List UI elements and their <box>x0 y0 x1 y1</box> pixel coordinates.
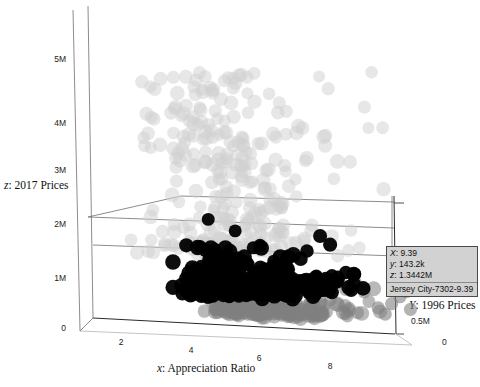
scatter-point[interactable] <box>145 111 158 124</box>
scatter-point[interactable] <box>173 196 186 209</box>
scatter-point[interactable] <box>209 104 222 117</box>
scatter-point[interactable] <box>294 252 308 266</box>
scatter-point[interactable] <box>206 87 219 100</box>
scatter-point[interactable] <box>280 105 293 118</box>
scatter-point[interactable] <box>158 239 171 252</box>
scatter-point[interactable] <box>235 130 248 143</box>
data-point-tooltip[interactable]: X: 9.39 y: 143.2k z: 1.3442M Jersey City… <box>386 246 478 297</box>
scatter-point[interactable] <box>231 285 246 300</box>
scatter-point[interactable] <box>229 224 242 237</box>
scatter-point[interactable] <box>193 66 206 79</box>
scatter-point[interactable] <box>305 218 318 231</box>
scatter-point[interactable] <box>322 273 336 287</box>
scatter-point[interactable] <box>145 234 157 246</box>
scatter-point[interactable] <box>168 218 181 231</box>
scatter-point[interactable] <box>209 190 222 203</box>
scatter-point[interactable] <box>313 70 325 82</box>
scatter-point[interactable] <box>289 173 301 185</box>
scatter-point[interactable] <box>181 265 197 281</box>
scatter-point[interactable] <box>353 241 366 254</box>
scatter-point[interactable] <box>187 148 200 161</box>
scatter-point[interactable] <box>343 155 357 169</box>
scatter-point[interactable] <box>194 240 207 253</box>
scatter-point[interactable] <box>217 125 231 139</box>
scatter-point[interactable] <box>263 87 276 100</box>
scatter-point[interactable] <box>328 172 341 185</box>
scatter-point[interactable] <box>304 273 318 287</box>
scatter-point[interactable] <box>183 282 197 296</box>
scatter-point[interactable] <box>188 158 202 172</box>
scatter-point[interactable] <box>240 146 252 158</box>
scatter-point[interactable] <box>322 82 335 95</box>
x-axis-title: x: Appreciation Ratio <box>156 362 256 375</box>
scatter-point[interactable] <box>227 110 241 124</box>
scatter-point[interactable] <box>169 152 182 165</box>
scatter-point[interactable] <box>179 70 193 84</box>
scatter-point[interactable] <box>289 236 302 249</box>
plot-canvas[interactable]: 5M 4M 3M 2M 1M 0 z: 2017 Prices 2 4 6 8 … <box>0 0 480 387</box>
scatter-point[interactable] <box>184 226 198 240</box>
scatter-point[interactable] <box>279 165 291 177</box>
scatter-point[interactable] <box>189 88 202 101</box>
scatter-point[interactable] <box>258 181 271 194</box>
scatter-point[interactable] <box>376 121 389 134</box>
scatter-point[interactable] <box>209 303 222 316</box>
scatter-point[interactable] <box>179 238 193 252</box>
scatter-point[interactable] <box>313 229 327 243</box>
scatter-point[interactable] <box>376 182 390 196</box>
scatter-point[interactable] <box>143 210 158 225</box>
scatter-point[interactable] <box>253 240 269 256</box>
scatter-point[interactable] <box>404 303 417 316</box>
scatter-point[interactable] <box>202 213 215 226</box>
scatter-point[interactable] <box>272 222 286 236</box>
scatter-point[interactable] <box>202 118 215 131</box>
scatter-point[interactable] <box>269 202 283 216</box>
scatter-point[interactable] <box>170 86 185 101</box>
scatter-point[interactable] <box>257 304 271 318</box>
scatter-point[interactable] <box>148 82 162 96</box>
scatter-point[interactable] <box>210 263 223 276</box>
scatter-point[interactable] <box>135 75 148 88</box>
scatter-point[interactable] <box>341 310 354 323</box>
scatter-point[interactable] <box>242 304 255 317</box>
scatter-point[interactable] <box>199 145 212 158</box>
scatter-point[interactable] <box>183 114 196 127</box>
scatter-point[interactable] <box>267 263 281 277</box>
scatter-point[interactable] <box>362 122 374 134</box>
scatter-point[interactable] <box>261 163 275 177</box>
scatter-point[interactable] <box>241 87 253 99</box>
scatter-point[interactable] <box>318 139 332 153</box>
scatter-point[interactable] <box>165 254 181 270</box>
scatter-point[interactable] <box>240 257 254 271</box>
scatter-point[interactable] <box>234 68 248 82</box>
scatter-point[interactable] <box>206 131 219 144</box>
scatter-point[interactable] <box>252 137 265 150</box>
scatter-point[interactable] <box>141 126 155 140</box>
scatter-point[interactable] <box>170 175 183 188</box>
scatter-point[interactable] <box>167 127 180 140</box>
scatter-point[interactable] <box>248 67 261 80</box>
scatter-point[interactable] <box>145 142 157 154</box>
scatter-point[interactable] <box>243 193 258 208</box>
scatter-point[interactable] <box>194 200 206 212</box>
scatter-point[interactable] <box>365 66 378 79</box>
scatter-point[interactable] <box>255 271 270 286</box>
scatter-point[interactable] <box>358 101 371 114</box>
scatter-point[interactable] <box>299 154 312 167</box>
scatter-point[interactable] <box>345 224 358 237</box>
scatter-point[interactable] <box>296 121 310 135</box>
scatter-point[interactable] <box>130 246 144 260</box>
scatter-point[interactable] <box>275 304 289 318</box>
scatter-point[interactable] <box>167 71 180 84</box>
scatter-point[interactable] <box>229 158 243 172</box>
scatter-point[interactable] <box>125 233 138 246</box>
scatter-point[interactable] <box>269 131 282 144</box>
scatter-point[interactable] <box>347 277 361 291</box>
scatter-point[interactable] <box>330 154 345 169</box>
scatter-point[interactable] <box>218 74 231 87</box>
scatter-point[interactable] <box>189 184 204 199</box>
scatter-point[interactable] <box>216 157 229 170</box>
scatter-point[interactable] <box>379 307 392 320</box>
scatter-point[interactable] <box>230 272 244 286</box>
scatter-point[interactable] <box>227 184 241 198</box>
